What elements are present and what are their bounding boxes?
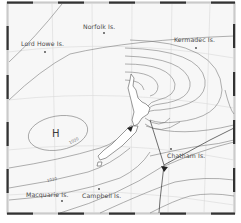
label-norfolk-island: Norfolk Is. [83,24,115,30]
label-kermadec-islands: Kermadec Is. [174,37,215,43]
high-pressure-label: H [52,129,60,139]
label-campbell-island: Campbell Is. [82,193,121,199]
label-chatham-islands: Chatham Is. [167,153,205,159]
map-area [8,3,234,213]
label-lord-howe-island: Lord Howe Is. [21,41,64,47]
label-macquarie-island: Macquarie Is. [26,192,69,198]
weather-map [0,0,241,223]
